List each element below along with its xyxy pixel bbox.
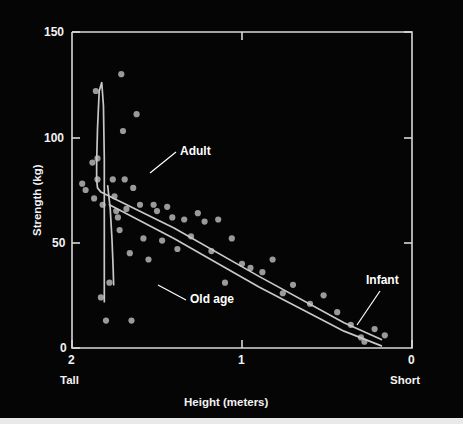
- x-tick-2: 2: [68, 354, 75, 366]
- data-point: [215, 216, 221, 222]
- data-point: [91, 195, 97, 201]
- data-point: [137, 202, 143, 208]
- data-point: [270, 256, 276, 262]
- x-axis-title: Height (meters): [184, 397, 268, 409]
- data-point: [372, 326, 378, 332]
- curve-growth-curve-upper: [97, 83, 382, 340]
- y-tick-50: 50: [52, 237, 65, 249]
- x-axis-left-word-tall: Tall: [60, 375, 79, 387]
- data-point: [290, 282, 296, 288]
- data-point: [89, 160, 95, 166]
- data-point: [115, 214, 121, 220]
- data-point: [127, 250, 133, 256]
- data-point: [259, 269, 265, 275]
- data-point: [382, 332, 388, 338]
- data-point: [159, 237, 165, 243]
- data-point: [174, 246, 180, 252]
- data-point: [120, 128, 126, 134]
- axis-frame: [72, 32, 412, 348]
- annotation-infant: Infant: [366, 274, 399, 286]
- y-axis-title: Strength (kg): [32, 164, 44, 236]
- y-tick-0: 0: [60, 342, 67, 354]
- trend-curves: [97, 83, 382, 346]
- data-point: [118, 71, 124, 77]
- tick-marks: [72, 32, 412, 348]
- infant-leader-line: [357, 291, 380, 325]
- curve-old-age-curve: [108, 186, 114, 285]
- data-point: [83, 187, 89, 193]
- data-point: [145, 256, 151, 262]
- data-point: [202, 219, 208, 225]
- data-point: [98, 294, 104, 300]
- data-point: [169, 214, 175, 220]
- data-point: [103, 318, 109, 324]
- data-point: [122, 176, 128, 182]
- data-point: [229, 235, 235, 241]
- data-point: [321, 292, 327, 298]
- data-point: [130, 185, 136, 191]
- data-point: [134, 111, 140, 117]
- data-point: [123, 206, 129, 212]
- y-tick-100: 100: [44, 132, 64, 144]
- data-point: [128, 318, 134, 324]
- data-point: [222, 280, 228, 286]
- x-tick-1: 1: [238, 354, 245, 366]
- data-point: [93, 88, 99, 94]
- annotation-old-age: Old age: [190, 293, 234, 305]
- data-point: [79, 181, 85, 187]
- y-tick-150: 150: [44, 26, 64, 38]
- data-point: [181, 216, 187, 222]
- old-age-leader-line: [158, 285, 186, 300]
- data-point: [110, 176, 116, 182]
- x-tick-0: 0: [408, 354, 415, 366]
- data-point: [154, 208, 160, 214]
- x-axis-right-word-short: Short: [390, 375, 420, 387]
- data-point: [117, 227, 123, 233]
- data-point: [334, 309, 340, 315]
- curve-growth-curve-lower: [109, 205, 381, 346]
- annotation-adult: Adult: [180, 145, 211, 157]
- data-point: [106, 280, 112, 286]
- data-point: [140, 235, 146, 241]
- data-point: [164, 204, 170, 210]
- adult-leader-line: [150, 152, 176, 173]
- plot-frame: [72, 32, 412, 348]
- figure-root: 150 100 50 0 2 1 0 Tall Short Height (me…: [0, 0, 463, 424]
- data-point: [195, 210, 201, 216]
- data-point: [151, 202, 157, 208]
- annotation-leaders: [150, 152, 380, 325]
